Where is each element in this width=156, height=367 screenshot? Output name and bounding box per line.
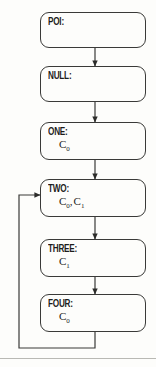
state-node-null[interactable]: NULL: [40, 66, 146, 102]
state-node-four[interactable]: FOUR:C0 [40, 294, 146, 332]
state-node-symbols: C0,C1 [59, 195, 85, 210]
state-node-label: NULL: [48, 70, 71, 81]
state-node-label: THREE: [48, 243, 77, 254]
symbol-subscript: 0 [66, 145, 70, 153]
state-node-one[interactable]: ONE:C0 [40, 122, 146, 160]
state-node-symbols: C1 [59, 255, 71, 270]
state-node-two[interactable]: TWO:C0,C1 [40, 179, 146, 217]
symbol-subscript: 1 [66, 262, 70, 270]
state-node-label: TWO: [48, 183, 69, 194]
state-node-symbols: C0 [59, 310, 71, 325]
symbol-subscript: 0 [66, 317, 70, 325]
state-node-poi[interactable]: POI: [40, 12, 146, 48]
state-node-label: POI: [48, 16, 64, 27]
state-node-label: FOUR: [48, 298, 73, 309]
symbol: C0, [59, 195, 73, 207]
footer-rule [0, 358, 156, 359]
symbol: C1 [59, 255, 70, 267]
symbol-subscript: 1 [81, 202, 85, 210]
state-node-three[interactable]: THREE:C1 [40, 239, 146, 277]
state-node-symbols: C0 [59, 138, 71, 153]
state-node-label: ONE: [48, 126, 68, 137]
symbol: C1 [74, 195, 85, 207]
state-diagram: POI:NULL:ONE:C0TWO:C0,C1THREE:C1FOUR:C0 [0, 0, 156, 367]
symbol: C0 [59, 138, 70, 150]
symbol: C0 [59, 310, 70, 322]
symbol-subscript: 0 [66, 202, 70, 210]
